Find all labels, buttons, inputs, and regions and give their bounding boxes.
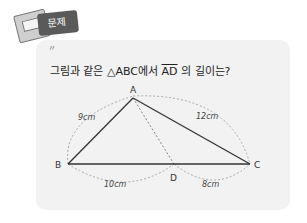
vertex-a: A bbox=[130, 85, 137, 95]
vertex-b: B bbox=[55, 160, 61, 170]
length-ac: 12cm bbox=[196, 112, 219, 121]
triangle-figure: A B C D 9cm 12cm 10cm 8cm bbox=[0, 0, 307, 223]
length-bd: 10cm bbox=[104, 180, 127, 189]
vertex-c: C bbox=[254, 160, 260, 170]
vertex-d: D bbox=[170, 173, 177, 183]
length-dc: 8cm bbox=[202, 180, 219, 189]
length-ab: 9cm bbox=[78, 113, 95, 122]
